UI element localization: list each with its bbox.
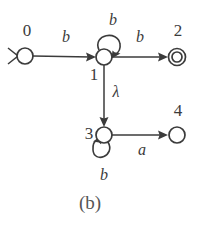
edge-3-to-4 <box>112 131 168 140</box>
edge-label-3-4: a <box>138 141 146 158</box>
state-label-3: 3 <box>85 124 94 143</box>
state-label-4: 4 <box>174 101 183 120</box>
edge-label-1-1: b <box>109 11 117 28</box>
fsm-canvas: 0 1 2 3 4 b b b λ b a (b) <box>0 0 197 227</box>
state-node-4[interactable] <box>169 127 185 143</box>
state-node-0[interactable] <box>17 48 33 64</box>
edge-label-1-2: b <box>136 28 144 45</box>
edge-1-to-2 <box>112 53 168 62</box>
figure-caption: (b) <box>79 192 101 214</box>
edge-line <box>33 56 91 57</box>
edge-label-3-3: b <box>100 166 108 183</box>
edge-0-to-1 <box>33 53 96 62</box>
state-label-1: 1 <box>90 65 99 84</box>
edge-label-1-3: λ <box>112 83 120 100</box>
state-node-1[interactable] <box>96 49 112 65</box>
edge-label-0-1: b <box>62 28 70 45</box>
state-node-2-accepting-inner <box>172 52 182 62</box>
state-label-0: 0 <box>23 21 32 40</box>
automaton-figure: 0 1 2 3 4 b b b λ b a (b) <box>0 0 197 227</box>
edge-1-to-3 <box>100 65 109 127</box>
state-label-2: 2 <box>174 21 183 40</box>
state-node-3[interactable] <box>96 127 112 143</box>
